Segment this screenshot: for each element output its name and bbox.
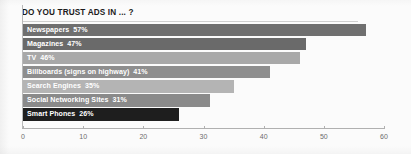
bar-label: Billboards (signs on highway)41% — [27, 66, 148, 78]
bar-value-label: 31% — [113, 96, 127, 104]
bar-label: TV46% — [27, 52, 55, 64]
bar-category-label: Newspapers — [27, 26, 69, 34]
bar-row: Newspapers57% — [23, 23, 384, 37]
bar-row: Search Engines35% — [23, 80, 384, 94]
bar-label: Newspapers57% — [27, 24, 88, 36]
x-axis-tick — [23, 126, 24, 129]
x-axis-tick — [83, 126, 84, 129]
bar-category-label: Smart Phones — [27, 110, 75, 118]
x-axis-tick-label: 10 — [79, 133, 87, 140]
plot-area: Newspapers57%Magazines47%TV46%Billboards… — [23, 23, 384, 122]
bar-category-label: Billboards (signs on highway) — [27, 68, 129, 76]
x-axis-tick-label: 30 — [200, 133, 208, 140]
x-axis-tick-label: 40 — [260, 133, 268, 140]
x-axis-tick — [204, 126, 205, 129]
x-axis-tick — [264, 126, 265, 129]
bar-value-label: 57% — [73, 26, 87, 34]
x-axis-tick-label: 60 — [380, 133, 388, 140]
bar-category-label: Search Engines — [27, 82, 81, 90]
chart-title-block: DO YOU TRUST ADS IN ... ? — [22, 6, 382, 22]
bar-value-label: 41% — [133, 68, 147, 76]
bar-chart: DO YOU TRUST ADS IN ... ? Newspapers57%M… — [0, 0, 411, 154]
bar-label: Social Networking Sites31% — [27, 94, 127, 106]
bar-row: Smart Phones26% — [23, 108, 384, 122]
bar-label: Search Engines35% — [27, 80, 99, 92]
bar — [23, 52, 300, 64]
bar-value-label: 26% — [79, 110, 93, 118]
bar-row: Billboards (signs on highway)41% — [23, 65, 384, 79]
x-axis-tick-label: 20 — [139, 133, 147, 140]
bar-row: TV46% — [23, 51, 384, 65]
chart-title: DO YOU TRUST ADS IN ... ? — [22, 6, 382, 19]
bar-category-label: Magazines — [27, 40, 63, 48]
x-axis-tick-label: 0 — [21, 133, 25, 140]
bar-row: Magazines47% — [23, 37, 384, 51]
x-axis-tick — [143, 126, 144, 129]
y-axis-line — [22, 5, 23, 129]
x-axis-tick-label: 50 — [320, 133, 328, 140]
bar-label: Magazines47% — [27, 38, 82, 50]
bar-category-label: Social Networking Sites — [27, 96, 109, 104]
title-divider — [22, 21, 358, 22]
bar-row: Social Networking Sites31% — [23, 94, 384, 108]
bar-value-label: 47% — [67, 40, 81, 48]
x-axis-tick — [384, 126, 385, 129]
bar-value-label: 46% — [40, 54, 54, 62]
bar-label: Smart Phones26% — [27, 108, 94, 120]
bar-category-label: TV — [27, 54, 36, 62]
bar-value-label: 35% — [85, 82, 99, 90]
x-axis-tick — [324, 126, 325, 129]
